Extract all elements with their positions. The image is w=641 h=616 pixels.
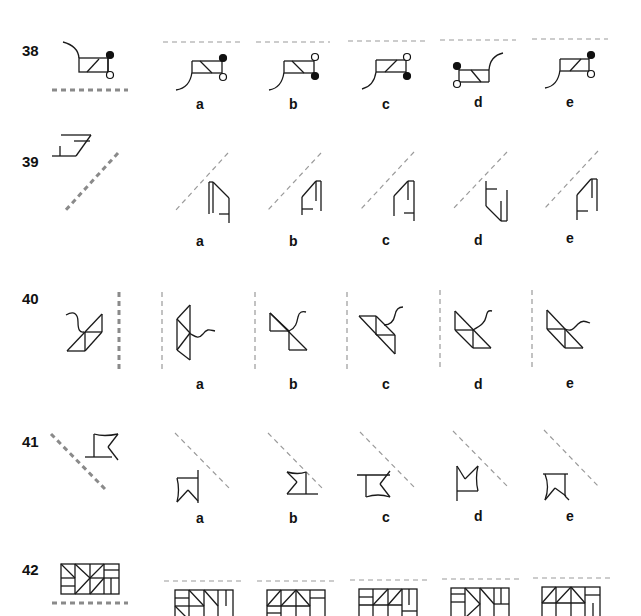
option-41d-figure[interactable] (453, 431, 507, 501)
option-41a-figure[interactable] (175, 433, 230, 503)
question-40-figure (66, 292, 119, 371)
option-42b-figure[interactable] (257, 581, 334, 616)
option-label-b[interactable]: b (289, 96, 298, 112)
question-41-figures (0, 400, 641, 520)
option-39e-figure[interactable] (545, 151, 598, 220)
option-39b-figure[interactable] (268, 153, 321, 215)
question-39-figure (52, 135, 118, 212)
option-40d-figure[interactable] (440, 290, 492, 370)
option-38a-figure[interactable] (163, 42, 240, 90)
option-39d-figure[interactable] (453, 152, 507, 221)
option-42a-figure[interactable] (164, 581, 242, 616)
option-42c-figure[interactable] (350, 580, 427, 616)
question-38-figures (0, 0, 641, 120)
option-40c-figure[interactable] (347, 292, 403, 371)
question-39-figures (0, 120, 641, 250)
option-label-d[interactable]: d (474, 376, 483, 392)
option-41b-figure[interactable] (268, 433, 322, 494)
option-38b-figure[interactable] (256, 42, 330, 90)
option-38e-figure[interactable] (532, 39, 608, 88)
option-40e-figure[interactable] (532, 290, 590, 368)
option-39c-figure[interactable] (361, 152, 414, 221)
option-label-e[interactable]: e (566, 230, 574, 246)
option-label-e[interactable]: e (566, 375, 574, 391)
option-label-d[interactable]: d (474, 232, 483, 248)
option-label-c[interactable]: c (382, 376, 390, 392)
option-label-c[interactable]: c (382, 232, 390, 248)
question-42-figures (0, 520, 641, 616)
option-38d-figure[interactable] (440, 40, 516, 88)
option-41c-figure[interactable] (357, 432, 415, 497)
question-42-figure (52, 564, 128, 603)
option-label-d[interactable]: d (474, 94, 483, 110)
option-label-e[interactable]: e (566, 94, 574, 110)
question-41-figure (51, 434, 118, 490)
option-41e-figure[interactable] (543, 430, 599, 500)
option-label-b[interactable]: b (289, 376, 298, 392)
option-label-c[interactable]: c (382, 96, 390, 112)
question-40-figures (0, 270, 641, 400)
option-label-a[interactable]: a (196, 233, 204, 249)
question-38-figure (52, 42, 128, 90)
option-40a-figure[interactable] (162, 292, 215, 371)
option-38c-figure[interactable] (348, 41, 425, 89)
option-label-a[interactable]: a (196, 376, 204, 392)
option-40b-figure[interactable] (255, 292, 307, 371)
option-label-b[interactable]: b (289, 233, 298, 249)
option-39a-figure[interactable] (175, 153, 229, 223)
option-42e-figure[interactable] (533, 578, 610, 616)
option-42d-figure[interactable] (442, 579, 519, 616)
option-label-a[interactable]: a (196, 96, 204, 112)
